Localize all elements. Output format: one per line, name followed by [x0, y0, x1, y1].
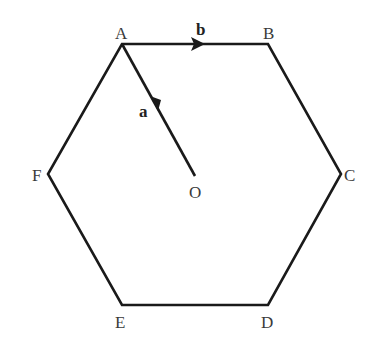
vertex-label-f: F: [32, 166, 41, 185]
vertex-label-d: D: [261, 313, 273, 332]
vertex-label-b: B: [263, 24, 274, 43]
vector-label-b: b: [196, 20, 205, 39]
vector-label-a: a: [139, 102, 148, 121]
vertex-label-a: A: [115, 24, 128, 43]
vertex-label-e: E: [115, 313, 125, 332]
vector-a-line: [122, 44, 195, 176]
vector-a-arrowhead-icon: [150, 96, 161, 111]
vertex-label-c: C: [344, 166, 355, 185]
center-label-o: O: [189, 183, 201, 202]
hexagon-diagram: A B C D E F O a b: [0, 0, 376, 350]
